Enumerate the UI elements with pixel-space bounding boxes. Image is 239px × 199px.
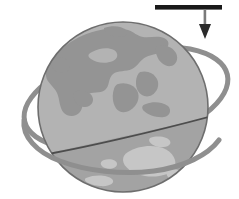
arrow-head bbox=[199, 24, 211, 39]
globe-diagram-canvas bbox=[0, 0, 239, 199]
arrow-shaft bbox=[204, 9, 207, 25]
figure-root: Earth globe with tilted orbital ring and… bbox=[0, 0, 239, 199]
arrow-support-bar bbox=[155, 5, 222, 10]
